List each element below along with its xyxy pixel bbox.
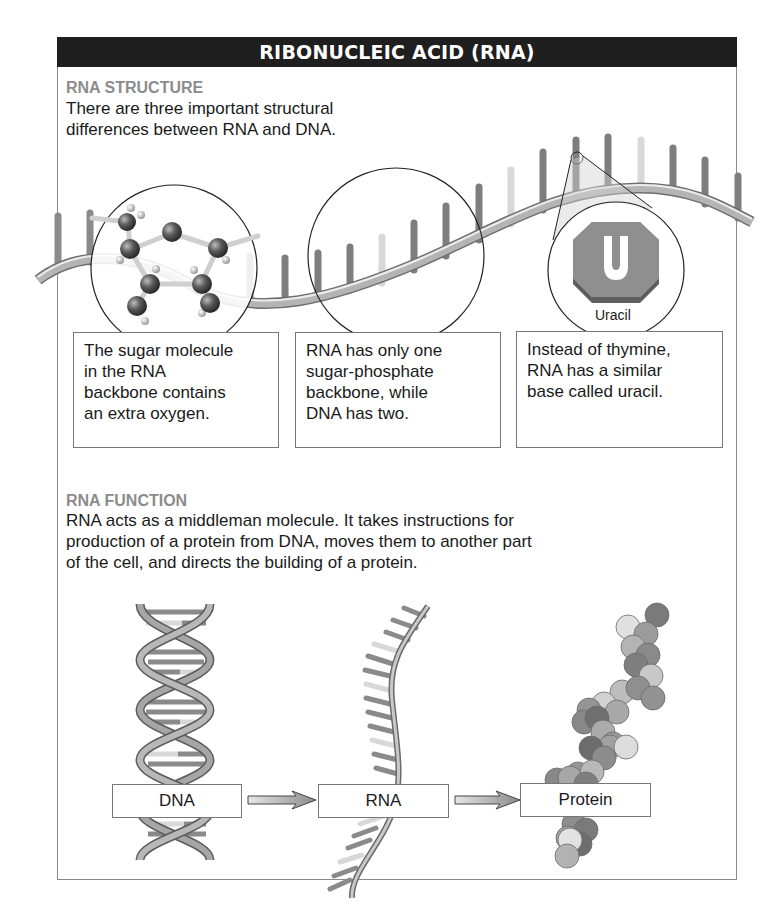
label-protein: Protein xyxy=(520,783,651,817)
label-dna: DNA xyxy=(112,784,242,818)
dna-double-helix-icon xyxy=(140,604,210,860)
rna-single-strand-icon xyxy=(330,606,428,898)
arrow-rna-to-protein-icon xyxy=(455,791,520,809)
label-rna: RNA xyxy=(318,784,449,818)
function-illustration xyxy=(0,0,771,905)
arrow-dna-to-rna-icon xyxy=(248,791,316,809)
protein-chain-icon xyxy=(545,603,669,868)
